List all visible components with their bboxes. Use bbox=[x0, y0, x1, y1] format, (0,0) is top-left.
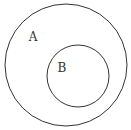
set-a-label: A bbox=[28, 30, 38, 44]
venn-diagram: A B bbox=[0, 0, 131, 130]
set-b-label: B bbox=[58, 61, 67, 75]
set-b-circle bbox=[47, 45, 109, 107]
